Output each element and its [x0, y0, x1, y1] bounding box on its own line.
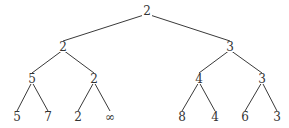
- node-label: 5: [13, 110, 21, 124]
- tree-node: 8: [177, 110, 187, 124]
- tree-edge: [63, 14, 147, 41]
- node-label: 5: [28, 72, 36, 86]
- tree-node: 4: [210, 110, 220, 124]
- node-label: 3: [226, 40, 234, 54]
- tree-edge: [245, 82, 262, 111]
- node-label: 4: [211, 110, 219, 124]
- tree-edges: [17, 14, 277, 111]
- node-label: 6: [241, 110, 249, 124]
- tree-node: 6: [240, 110, 250, 124]
- tree-node: 2: [58, 40, 68, 54]
- tree-node: 5: [12, 110, 22, 124]
- tree-nodes: 2235243572∞8463: [12, 4, 282, 124]
- tree-edge: [230, 50, 262, 73]
- tree-node: 5: [27, 72, 37, 86]
- node-label: 2: [90, 72, 98, 86]
- node-label: 7: [44, 110, 52, 124]
- node-label: 2: [59, 40, 67, 54]
- node-label: 3: [273, 110, 281, 124]
- tree-edge: [182, 82, 199, 111]
- tree-edge: [147, 14, 230, 41]
- tree-node: 7: [43, 110, 53, 124]
- tree-node: 2: [89, 72, 99, 86]
- tree-edge: [262, 82, 277, 111]
- tree-edge: [63, 50, 94, 73]
- tree-edge: [32, 82, 48, 111]
- tree-edge: [94, 82, 110, 111]
- tree-edge: [78, 82, 94, 111]
- node-label: 2: [143, 4, 151, 18]
- tree-node: 3: [272, 110, 282, 124]
- tree-edge: [199, 82, 215, 111]
- tree-node: ∞: [105, 110, 115, 124]
- tree-node: 2: [73, 110, 83, 124]
- node-label: 8: [178, 110, 186, 124]
- tree-node: 3: [257, 72, 267, 86]
- tree-node: 3: [225, 40, 235, 54]
- tree-node: 4: [194, 72, 204, 86]
- tree-node: 2: [142, 4, 152, 18]
- binary-tree-diagram: 2235243572∞8463: [0, 0, 289, 128]
- node-label: ∞: [105, 110, 115, 124]
- node-label: 4: [195, 72, 203, 86]
- node-label: 2: [74, 110, 82, 124]
- tree-edge: [17, 82, 32, 111]
- node-label: 3: [258, 72, 266, 86]
